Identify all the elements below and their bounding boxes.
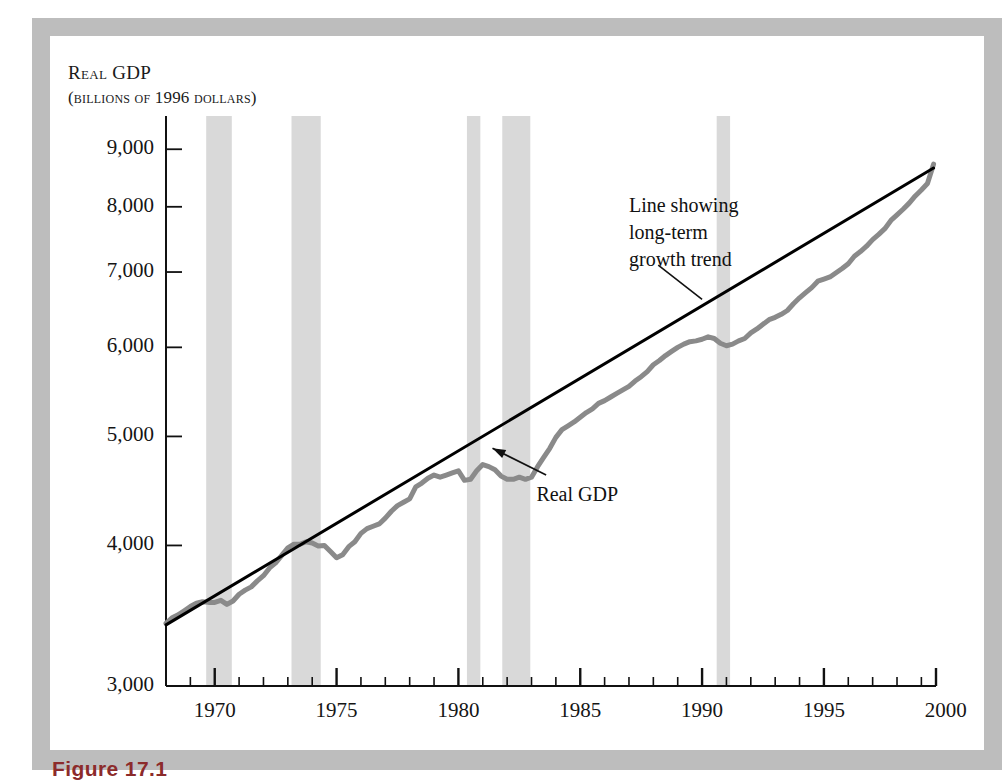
trend-annotation-line: long-term: [629, 219, 738, 246]
recession-band: [502, 116, 530, 686]
y-axis-tick-label: 7,000: [62, 258, 154, 283]
y-axis-tick-label: 6,000: [62, 333, 154, 358]
y-axis-tick-label: 5,000: [62, 422, 154, 447]
x-axis-tick-label: 1975: [297, 698, 377, 723]
figure-caption: Figure 17.1: [52, 757, 167, 781]
trend-annotation-line: growth trend: [629, 246, 738, 273]
series-line: [166, 168, 934, 625]
x-axis-tick-label: 2000: [906, 698, 986, 723]
recession-band: [467, 116, 480, 686]
series-line: [166, 164, 934, 623]
x-axis-tick-label: 1980: [418, 698, 498, 723]
y-axis-tick-label: 9,000: [62, 135, 154, 160]
x-axis-tick-label: 1985: [540, 698, 620, 723]
chart-series: [166, 164, 934, 625]
real-gdp-annotation-line: Real GDP: [536, 481, 618, 508]
x-axis-tick-label: 1970: [175, 698, 255, 723]
real-gdp-annotation: Real GDP: [536, 481, 618, 508]
trend-annotation: Line showinglong-termgrowth trend: [629, 192, 738, 273]
recession-band: [291, 116, 320, 686]
x-axis-tick-label: 1995: [784, 698, 864, 723]
x-axis-tick-label: 1990: [662, 698, 742, 723]
chart-axes: [166, 116, 936, 686]
y-axis-tick-label: 8,000: [62, 193, 154, 218]
y-axis-tick-label: 3,000: [62, 672, 154, 697]
trend-annotation-line: Line showing: [629, 192, 738, 219]
y-axis-tick-label: 4,000: [62, 531, 154, 556]
